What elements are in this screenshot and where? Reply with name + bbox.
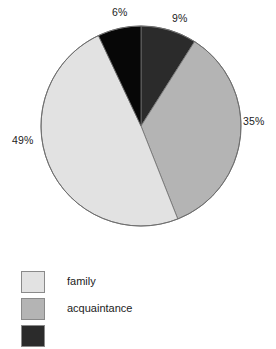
slice-label-35: 35% — [243, 115, 264, 127]
slice-label-9: 9% — [172, 12, 187, 24]
legend-item[interactable]: acquaintance — [0, 295, 276, 322]
legend-swatch-1 — [21, 271, 45, 293]
legend-label-2: acquaintance — [67, 302, 132, 315]
slice-label-49: 49% — [12, 134, 33, 146]
legend-label-1: family — [67, 275, 96, 288]
legend-item[interactable] — [0, 322, 276, 349]
legend-swatch-2 — [21, 298, 45, 320]
pie-chart-area — [0, 0, 276, 252]
pie-chart-svg — [0, 0, 276, 252]
slice-label-6: 6% — [112, 6, 127, 18]
legend-item[interactable]: family — [0, 268, 276, 295]
chart-legend: familyacquaintance — [0, 268, 276, 349]
legend-swatch-3 — [21, 325, 45, 347]
